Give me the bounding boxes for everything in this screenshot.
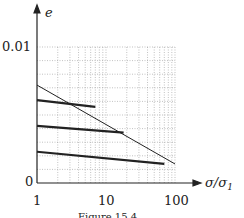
y-tick-zero: 0 bbox=[25, 174, 33, 189]
x-axis-arrow-icon bbox=[193, 180, 201, 186]
figure-caption: Figure 15.4 ... bbox=[78, 211, 150, 218]
y-axis-label: e bbox=[45, 5, 53, 20]
series-line bbox=[37, 152, 164, 164]
series-line bbox=[37, 100, 95, 107]
x-axis-label: σ/σ1 bbox=[205, 175, 233, 192]
chart: e 0.01 0 1 10 100 σ/σ1 Figure 15.4 ... bbox=[0, 0, 244, 218]
y-axis-arrow-icon bbox=[34, 5, 40, 13]
x-tick-1: 1 bbox=[33, 193, 41, 208]
x-tick-100: 100 bbox=[164, 193, 189, 208]
x-tick-10: 10 bbox=[98, 193, 115, 208]
y-tick-top: 0.01 bbox=[2, 39, 31, 54]
